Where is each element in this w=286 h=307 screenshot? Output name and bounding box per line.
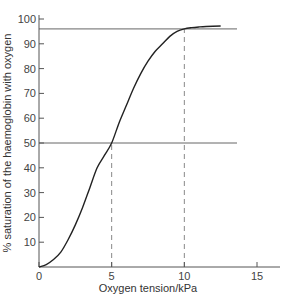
y-axis-label: % saturation of the haemoglobin with oxy… [1,34,13,253]
y-tick-label: 80 [24,63,36,75]
y-tick-label: 30 [24,187,36,199]
y-tick-label: 60 [24,112,36,124]
x-tick-label: 15 [251,270,263,282]
y-tick-label: 50 [24,137,36,149]
oxygen-dissociation-chart: 102030405060708090100 051015 Oxygen tens… [0,0,286,307]
y-tick-label: 100 [18,13,36,25]
reference-lines [39,29,237,267]
y-tick-label: 20 [24,211,36,223]
y-tick-label: 70 [24,87,36,99]
y-tick-label: 40 [24,162,36,174]
x-tick-label: 5 [109,270,115,282]
x-ticks: 051015 [36,262,263,282]
x-tick-label: 10 [178,270,190,282]
y-tick-label: 10 [24,236,36,248]
axes [39,15,280,267]
dissociation-curve [39,26,221,267]
y-tick-label: 90 [24,38,36,50]
x-axis-label: Oxygen tension/kPa [99,282,198,294]
x-tick-label: 0 [36,270,42,282]
y-ticks: 102030405060708090100 [18,13,44,248]
